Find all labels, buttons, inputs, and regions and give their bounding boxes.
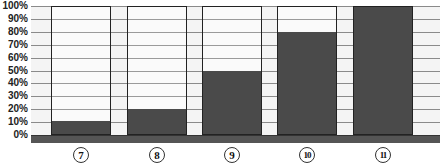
x-axis-base <box>31 135 440 143</box>
bar-gridline <box>203 58 261 59</box>
bar-gridline <box>52 19 110 20</box>
bar-8 <box>127 6 187 135</box>
bar-gridline <box>52 83 110 84</box>
bar-gridline <box>128 96 186 97</box>
y-tick-label: 60% <box>0 53 28 63</box>
bar-fill <box>203 71 261 135</box>
y-tick-label: 20% <box>0 104 28 114</box>
bar-chart: 0%10%20%30%40%50%60%70%80%90%100% 789101… <box>0 0 442 165</box>
bar-gridline <box>52 71 110 72</box>
y-tick-label: 50% <box>0 66 28 76</box>
bar-fill <box>354 7 412 134</box>
bar-gridline <box>203 32 261 33</box>
x-tick-label: 11 <box>375 147 391 163</box>
bar-gridline <box>52 58 110 59</box>
bar-fill <box>52 121 110 134</box>
bar-gridline <box>52 45 110 46</box>
bar-gridline <box>203 45 261 46</box>
bar-10 <box>277 6 337 135</box>
bar-gridline <box>128 45 186 46</box>
bar-gridline <box>128 83 186 84</box>
y-tick-label: 100% <box>0 1 28 11</box>
bar-gridline <box>128 19 186 20</box>
bar-gridline <box>52 32 110 33</box>
bar-7 <box>51 6 111 135</box>
bar-gridline <box>52 96 110 97</box>
bar-gridline <box>128 58 186 59</box>
plot-area <box>31 6 440 135</box>
y-tick-label: 70% <box>0 40 28 50</box>
y-tick-label: 10% <box>0 117 28 127</box>
x-tick-label: 7 <box>73 147 89 163</box>
bar-gridline <box>128 32 186 33</box>
bar-gridline <box>278 19 336 20</box>
x-tick-label: 9 <box>224 147 240 163</box>
bar-fill <box>128 109 186 134</box>
y-tick-label: 90% <box>0 14 28 24</box>
bar-gridline <box>128 71 186 72</box>
bar-gridline <box>52 109 110 110</box>
y-tick-label: 30% <box>0 91 28 101</box>
bar-gridline <box>203 19 261 20</box>
y-tick-label: 40% <box>0 78 28 88</box>
x-tick-label: 10 <box>299 147 315 163</box>
bar-fill <box>278 32 336 134</box>
x-tick-label: 8 <box>149 147 165 163</box>
bar-9 <box>202 6 262 135</box>
y-tick-label: 0% <box>0 130 28 140</box>
y-tick-label: 80% <box>0 27 28 37</box>
bar-11 <box>353 6 413 135</box>
